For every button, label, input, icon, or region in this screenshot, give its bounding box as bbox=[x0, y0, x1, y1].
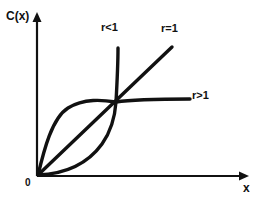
curve-label-r-greater-than-1: r>1 bbox=[192, 90, 209, 101]
curve-linear-r-equals-1 bbox=[38, 47, 172, 175]
curve-label-r-less-than-1: r<1 bbox=[101, 22, 118, 33]
curve-plot-svg bbox=[0, 0, 260, 203]
figure-canvas: C(x) r<1 r=1 r>1 0 x bbox=[0, 0, 260, 203]
origin-label: 0 bbox=[25, 178, 31, 188]
y-axis-label: C(x) bbox=[6, 10, 29, 22]
x-axis-arrow-icon bbox=[239, 172, 249, 181]
x-axis-label: x bbox=[243, 182, 250, 194]
y-axis-arrow-icon bbox=[33, 12, 42, 22]
curve-label-r-equals-1: r=1 bbox=[161, 23, 178, 34]
